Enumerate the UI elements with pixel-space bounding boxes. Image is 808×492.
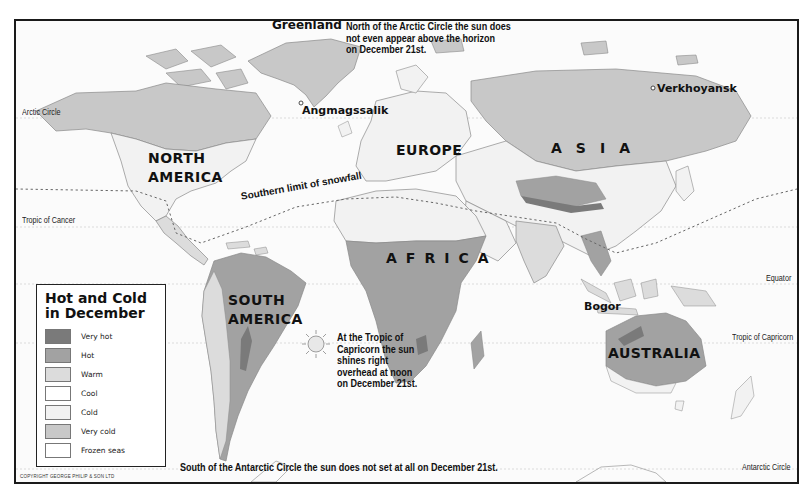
legend-label: Warm (81, 370, 103, 379)
label-north-america-line2: AMERICA (148, 168, 223, 187)
label-north-america-line1: NORTH (148, 149, 223, 168)
verkhoyansk-marker (651, 86, 655, 90)
label-arctic-circle: Arctic Circle (22, 107, 61, 117)
legend-title: Hot and Cold in December (45, 291, 157, 321)
caribbean-islands (226, 241, 268, 255)
legend-label: Hot (81, 351, 94, 360)
label-australia: AUSTRALIA (608, 344, 701, 363)
label-bogor: Bogor (584, 300, 621, 313)
legend-label: Cold (81, 408, 98, 417)
legend: Hot and Cold in December Very hot Hot Wa… (36, 284, 166, 467)
greenland-landmass (248, 39, 361, 107)
british-isles (338, 121, 352, 137)
legend-item-warm: Warm (45, 365, 157, 384)
legend-label: Frozen seas (81, 446, 125, 455)
legend-title-line1: Hot and Cold (45, 291, 157, 306)
note-arctic-line3: on December 21st. (346, 44, 511, 56)
label-equator: Equator (766, 273, 791, 283)
note-capricorn: At the Tropic of Capricorn the sun shine… (337, 332, 417, 390)
copyright: COPYRIGHT GEORGE PHILIP & SON LTD (20, 474, 114, 479)
legend-label: Very hot (81, 332, 112, 341)
note-capricorn-line3: shines right (337, 355, 417, 367)
legend-item-very-cold: Very cold (45, 422, 157, 441)
legend-label: Very cold (81, 427, 116, 436)
swatch-very-hot (45, 329, 71, 344)
swatch-hot (45, 348, 71, 363)
india (516, 221, 564, 283)
swatch-cool (45, 386, 71, 401)
label-south-america-line2: AMERICA (228, 310, 303, 329)
new-zealand (731, 376, 754, 419)
madagascar (471, 331, 484, 369)
note-capricorn-line1: At the Tropic of (337, 332, 417, 344)
label-angmagssalik: Angmagssalik (302, 104, 388, 117)
note-capricorn-line5: on December 21st. (337, 378, 417, 390)
label-asia: ASIA (551, 139, 644, 158)
tasmania (675, 401, 684, 411)
north-america-north (36, 83, 271, 151)
label-verkhoyansk: Verkhoyansk (657, 82, 737, 95)
note-arctic-line1: North of the Arctic Circle the sun does (346, 21, 511, 33)
legend-item-frozen-seas: Frozen seas (45, 441, 157, 460)
swatch-cold (45, 405, 71, 420)
scandinavia (396, 65, 428, 93)
legend-item-hot: Hot (45, 346, 157, 365)
label-antarctic-circle: Antarctic Circle (742, 462, 791, 472)
legend-item-cool: Cool (45, 384, 157, 403)
label-tropic-of-capricorn: Tropic of Capricorn (732, 332, 793, 342)
sun-icon (302, 330, 330, 358)
note-arctic: North of the Arctic Circle the sun does … (346, 21, 511, 56)
label-south-america-line1: SOUTH (228, 291, 303, 310)
legend-title-line2: in December (45, 306, 157, 321)
antarctica-coast (576, 465, 666, 482)
world-map: NORTH AMERICA SOUTH AMERICA EUROPE AFRIC… (14, 19, 799, 484)
swatch-very-cold (45, 424, 71, 439)
legend-label: Cool (81, 389, 98, 398)
legend-item-very-hot: Very hot (45, 327, 157, 346)
label-africa: AFRICA (386, 249, 498, 268)
swatch-warm (45, 367, 71, 382)
label-tropic-of-cancer: Tropic of Cancer (22, 215, 75, 225)
japan (676, 166, 694, 201)
label-greenland: Greenland (272, 19, 342, 32)
swatch-frozen-seas (45, 443, 71, 458)
label-south-america: SOUTH AMERICA (228, 291, 303, 329)
label-europe: EUROPE (396, 141, 462, 160)
legend-item-cold: Cold (45, 403, 157, 422)
africa-north (334, 189, 486, 243)
central-america (156, 216, 208, 265)
note-antarctic: South of the Antarctic Circle the sun do… (180, 462, 498, 474)
label-north-america: NORTH AMERICA (148, 149, 223, 187)
